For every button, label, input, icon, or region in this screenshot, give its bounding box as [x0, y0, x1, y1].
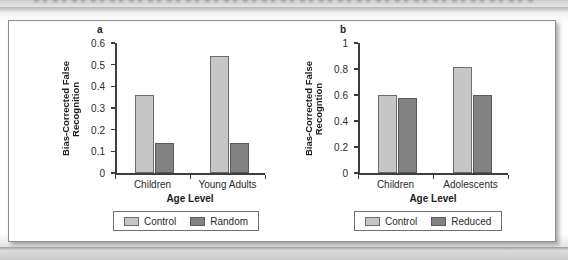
panel-a-legend-item-control: Control: [124, 216, 176, 227]
figure-card: a Bias-Corrected False Recognition 00.10…: [8, 20, 556, 242]
panel-a-y-tick-4: 0.4: [111, 86, 115, 87]
panel-letter-a: a: [97, 24, 103, 35]
panel-b-legend: Control Reduced: [354, 211, 502, 231]
panel-a-bar-young-adults-control: [210, 56, 229, 173]
panel-a-bars: [117, 43, 265, 173]
panel-a-legend-swatch-random: [190, 217, 205, 226]
panel-b-legend-swatch-control: [365, 217, 380, 226]
panel-b-legend-item-reduced: Reduced: [431, 216, 491, 227]
figure-panels: a Bias-Corrected False Recognition 00.10…: [9, 21, 555, 241]
panel-a-y-tick-label-4: 0.4: [91, 81, 105, 92]
panel-b-bar-adolescents-control: [453, 67, 472, 174]
panel-b-x-tick-labels: Children Adolescents: [358, 179, 508, 190]
panel-a-x-tick-mark-2: [265, 175, 266, 179]
panel-a-y-tick-label-1: 0.1: [91, 146, 105, 157]
panel-b-bar-children-reduced: [398, 98, 417, 173]
panel-b-bar-adolescents-reduced: [473, 95, 492, 173]
panel-a-y-tick-label-6: 0.6: [91, 38, 105, 49]
panel-b-legend-swatch-reduced: [431, 217, 446, 226]
panel-a-legend-label-random: Random: [210, 216, 248, 227]
panel-b-y-tick-label-1: 0.2: [334, 141, 348, 152]
chart-panel-a: a Bias-Corrected False Recognition 00.10…: [9, 21, 282, 241]
panel-b-legend-label-control: Control: [385, 216, 417, 227]
panel-a-y-tick-label-5: 0.5: [91, 59, 105, 70]
panel-b-y-tick-label-3: 0.6: [334, 89, 348, 100]
panel-b-y-tick-0: 0: [354, 172, 358, 173]
panel-a-y-tick-label-3: 0.3: [91, 102, 105, 113]
panel-b-x-tick-mark-2: [508, 175, 509, 179]
panel-b-y-tick-3: 0.6: [354, 94, 358, 95]
panel-b-y-tick-2: 0.4: [354, 120, 358, 121]
panel-b-y-tick-5: 1: [354, 42, 358, 43]
page-header-band: [0, 0, 568, 17]
running-head-text-smudge: [34, 0, 534, 2]
panel-a-y-tick-3: 0.3: [111, 107, 115, 108]
panel-b-legend-item-control: Control: [365, 216, 417, 227]
panel-b-plot-area: 00.20.40.60.81: [358, 43, 508, 175]
panel-a-bar-children-control: [135, 95, 154, 173]
panel-a-x-tick-labels: Children Young Adults: [115, 179, 265, 190]
panel-a-y-axis-title-line-2: Recognition: [71, 82, 81, 137]
chart-panel-b: b Bias-Corrected False Recogntion 00.20.…: [282, 21, 555, 241]
panel-b-x-axis-title: Age Level: [358, 193, 508, 204]
panel-a-y-tick-label-0: 0: [99, 167, 105, 178]
panel-a-plot-area: 00.10.20.30.40.50.6: [115, 43, 265, 175]
panel-b-y-tick-4: 0.8: [354, 68, 358, 69]
panel-a-y-tick-6: 0.6: [111, 42, 115, 43]
panel-b-x-tick-label-1: Adolescents: [433, 179, 508, 190]
panel-a-y-tick-2: 0.2: [111, 129, 115, 130]
footer-rule: [0, 247, 568, 251]
panel-b-bar-children-control: [378, 95, 397, 173]
panel-a-bar-young-adults-random: [230, 143, 249, 173]
panel-letter-b: b: [340, 24, 346, 35]
panel-a-legend-swatch-control: [124, 217, 139, 226]
panel-b-x-tick-label-0: Children: [358, 179, 433, 190]
panel-b-y-tick-label-0: 0: [342, 167, 348, 178]
panel-a-x-tick-label-1: Young Adults: [190, 179, 265, 190]
panel-a-x-tick-label-0: Children: [115, 179, 190, 190]
panel-b-y-tick-1: 0.2: [354, 146, 358, 147]
panel-a-legend-label-control: Control: [144, 216, 176, 227]
panel-b-legend-label-reduced: Reduced: [451, 216, 491, 227]
panel-b-y-tick-label-4: 0.8: [334, 63, 348, 74]
panel-a-y-tick-5: 0.5: [111, 64, 115, 65]
panel-b-y-axis-title-line-2: Recogntion: [314, 83, 324, 135]
panel-a-x-axis-title: Age Level: [115, 193, 265, 204]
panel-a-y-tick-1: 0.1: [111, 151, 115, 152]
panel-b-y-tick-label-5: 1: [342, 38, 348, 49]
panel-a-y-axis-title: Bias-Corrected False Recognition: [61, 39, 82, 179]
panel-b-y-tick-label-2: 0.4: [334, 115, 348, 126]
panel-a-legend: Control Random: [113, 211, 259, 231]
panel-a-bar-children-random: [155, 143, 174, 173]
panel-b-y-axis-title: Bias-Corrected False Recogntion: [304, 39, 325, 179]
header-rule: [0, 7, 568, 12]
panel-a-y-tick-0: 0: [111, 172, 115, 173]
panel-a-y-tick-label-2: 0.2: [91, 124, 105, 135]
panel-a-legend-item-random: Random: [190, 216, 248, 227]
panel-b-bars: [360, 43, 508, 173]
